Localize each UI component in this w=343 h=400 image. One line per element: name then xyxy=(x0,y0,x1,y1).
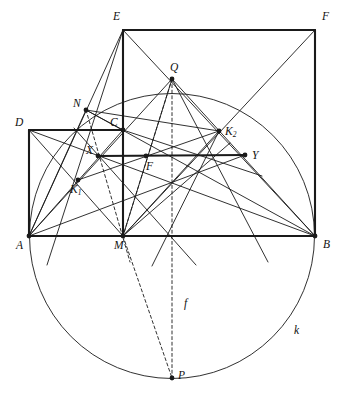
ray-E-K1-down xyxy=(47,30,123,265)
point-label-F-corner: F xyxy=(322,11,329,23)
segment-X-Y xyxy=(98,155,245,156)
point-dot-B xyxy=(313,234,318,239)
point-label-E: E xyxy=(113,11,120,23)
point-label-Y: Y xyxy=(252,150,258,162)
chord-N-B xyxy=(86,110,315,236)
geometry-figure: A B M C D E F Q P N X Y F K1 K2 k f xyxy=(0,0,343,400)
point-label-K1: K1 xyxy=(70,184,81,197)
point-dot-X xyxy=(96,154,101,159)
point-label-X: X xyxy=(86,145,93,157)
line-label-f: f xyxy=(184,298,187,310)
point-label-P: P xyxy=(178,370,185,382)
point-label-A: A xyxy=(16,240,23,252)
point-dot-M xyxy=(121,234,126,239)
ray-M-right-up xyxy=(123,143,230,236)
dashed-M-to-P xyxy=(123,236,172,378)
point-dot-Y xyxy=(243,153,248,158)
chord-M-K2 xyxy=(123,131,219,236)
point-label-M: M xyxy=(114,240,124,252)
point-label-C: C xyxy=(110,117,118,129)
chord-A-N xyxy=(29,110,86,236)
point-dot-A xyxy=(27,234,32,239)
point-dot-C xyxy=(121,128,126,133)
point-label-D: D xyxy=(15,117,23,129)
point-dot-Q xyxy=(170,77,175,82)
point-dot-F_mid xyxy=(144,154,149,159)
point-markers-group xyxy=(27,77,318,381)
point-label-B: B xyxy=(323,239,330,251)
point-label-Q: Q xyxy=(170,62,178,74)
point-label-F-mid: F xyxy=(146,161,153,173)
point-label-N: N xyxy=(73,98,81,110)
point-dot-K2 xyxy=(217,129,222,134)
point-dot-P xyxy=(170,376,175,381)
dashed-segments-group xyxy=(86,79,172,378)
point-label-K2: K2 xyxy=(225,126,236,139)
chord-B-Q xyxy=(172,79,315,236)
point-dot-N xyxy=(84,108,89,113)
geometry-canvas xyxy=(0,0,343,400)
point-dot-K1 xyxy=(76,178,81,183)
circle-label-k: k xyxy=(294,325,299,337)
